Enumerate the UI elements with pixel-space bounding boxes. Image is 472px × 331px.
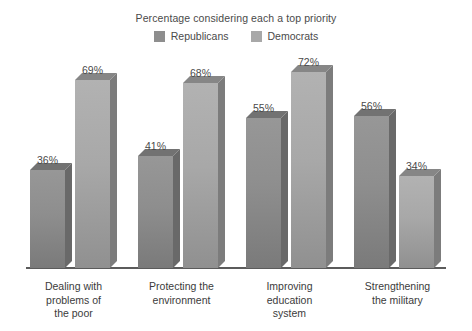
bar-side-face: [65, 163, 72, 268]
bar-front-face: [246, 118, 281, 268]
category-label-2: Improvingeducationsystem: [230, 280, 350, 321]
bar-democrats-3: 34%: [399, 176, 434, 268]
bar-republicans-1: 41%: [138, 156, 173, 268]
category-label-line: the poor: [14, 307, 134, 321]
bar-side-face: [389, 109, 396, 268]
bar-value-label: 55%: [246, 102, 281, 114]
bar-republicans-3: 56%: [354, 116, 389, 268]
category-label-3: Strengtheningthe military: [338, 280, 458, 307]
bar-democrats-1: 68%: [183, 83, 218, 268]
category-label-line: problems of: [14, 294, 134, 308]
bar-side-face: [218, 76, 225, 268]
bar-front-face: [354, 116, 389, 268]
bar-democrats-2: 72%: [291, 72, 326, 268]
bar-value-label: 72%: [291, 56, 326, 68]
bar-value-label: 56%: [354, 100, 389, 112]
category-label-line: Protecting the: [122, 280, 242, 294]
bar-democrats-0: 69%: [75, 80, 110, 268]
bar-front-face: [138, 156, 173, 268]
category-label-line: education: [230, 294, 350, 308]
bar-front-face: [183, 83, 218, 268]
category-label-1: Protecting theenvironment: [122, 280, 242, 307]
category-label-line: Dealing with: [14, 280, 134, 294]
category-label-line: Improving: [230, 280, 350, 294]
category-label-line: system: [230, 307, 350, 321]
bar-side-face: [281, 111, 288, 268]
bar-front-face: [291, 72, 326, 268]
plot-area: 36%69%41%68%55%72%56%34% Dealing withpro…: [0, 0, 472, 331]
bar-value-label: 41%: [138, 140, 173, 152]
bar-value-label: 68%: [183, 67, 218, 79]
category-label-line: environment: [122, 294, 242, 308]
category-label-0: Dealing withproblems ofthe poor: [14, 280, 134, 321]
bar-side-face: [326, 65, 333, 268]
bar-chart: Percentage considering each a top priori…: [0, 0, 472, 331]
bar-side-face: [110, 73, 117, 268]
bar-front-face: [30, 170, 65, 268]
bar-front-face: [75, 80, 110, 268]
bar-value-label: 36%: [30, 154, 65, 166]
bar-side-face: [173, 149, 180, 268]
bar-front-face: [399, 176, 434, 268]
bar-side-face: [434, 169, 441, 268]
category-label-line: Strengthening: [338, 280, 458, 294]
bar-value-label: 69%: [75, 64, 110, 76]
category-label-line: the military: [338, 294, 458, 308]
bar-value-label: 34%: [399, 160, 434, 172]
bar-republicans-2: 55%: [246, 118, 281, 268]
bar-republicans-0: 36%: [30, 170, 65, 268]
